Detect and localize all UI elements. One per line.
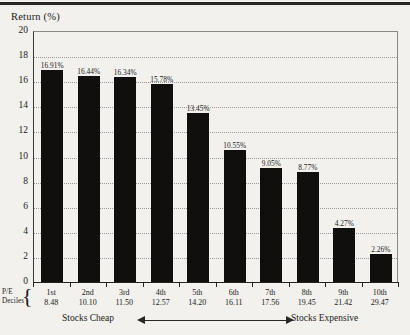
bar-value-label: 2.26% bbox=[363, 245, 399, 254]
x-axis-tick bbox=[33, 282, 34, 287]
decile-rank-label: 4th bbox=[141, 288, 181, 297]
top-rule-divider bbox=[0, 2, 410, 5]
annotation-stocks-expensive: Stocks Expensive bbox=[291, 313, 358, 323]
bar-value-label: 15.78% bbox=[144, 75, 180, 84]
bar-value-label: 13.45% bbox=[180, 104, 216, 113]
bar-value-label: 16.91% bbox=[34, 61, 70, 70]
decile-rank-label: 5th bbox=[177, 288, 217, 297]
x-axis-tick bbox=[252, 282, 253, 287]
decile-rank-label: 7th bbox=[250, 288, 290, 297]
bar bbox=[260, 168, 282, 282]
decile-pe-value: 21.42 bbox=[323, 298, 363, 307]
decile-pe-value: 12.57 bbox=[141, 298, 181, 307]
bar bbox=[187, 113, 209, 282]
bar bbox=[41, 70, 63, 282]
bar bbox=[370, 254, 392, 282]
bar bbox=[297, 172, 319, 282]
y-axis-title: Return (%) bbox=[11, 11, 60, 22]
decile-pe-value: 17.56 bbox=[250, 298, 290, 307]
decile-rank-label: 3rd bbox=[104, 288, 144, 297]
x-axis-tick bbox=[362, 282, 363, 287]
bar-value-label: 4.27% bbox=[326, 219, 362, 228]
decile-rank-label: 2nd bbox=[68, 288, 108, 297]
x-axis-tick bbox=[143, 282, 144, 287]
x-axis-tick bbox=[216, 282, 217, 287]
bar-value-label: 9.05% bbox=[253, 159, 289, 168]
y-axis-tick-label: 10 bbox=[4, 151, 28, 161]
decile-rank-label: 1st bbox=[31, 288, 71, 297]
chart-page: Return (%) 16.91%16.44%16.34%15.78%13.45… bbox=[0, 0, 410, 335]
bar bbox=[333, 228, 355, 282]
pe-label-line1: P/E bbox=[2, 288, 13, 296]
decile-pe-value: 29.47 bbox=[360, 298, 400, 307]
x-axis-tick bbox=[325, 282, 326, 287]
bar-value-label: 10.55% bbox=[217, 141, 253, 150]
x-axis-tick bbox=[289, 282, 290, 287]
y-axis-tick-label: 12 bbox=[4, 125, 28, 135]
decile-rank-label: 10th bbox=[360, 288, 400, 297]
x-axis-tick bbox=[179, 282, 180, 287]
y-axis-tick-label: 8 bbox=[4, 176, 28, 186]
bar bbox=[78, 76, 100, 282]
bar-value-label: 8.77% bbox=[290, 163, 326, 172]
annotation-arrow-line bbox=[144, 320, 288, 321]
bar bbox=[114, 77, 136, 282]
decile-pe-value: 10.10 bbox=[68, 298, 108, 307]
y-axis-tick-label: 18 bbox=[4, 50, 28, 60]
decile-pe-value: 16.11 bbox=[214, 298, 254, 307]
annotation-stocks-cheap: Stocks Cheap bbox=[62, 313, 114, 323]
pe-label-line2: Deciles bbox=[2, 297, 24, 305]
x-axis-tick bbox=[106, 282, 107, 287]
bar-value-label: 16.34% bbox=[107, 68, 143, 77]
bar-value-label: 16.44% bbox=[71, 67, 107, 76]
plot-area: 16.91%16.44%16.34%15.78%13.45%10.55%9.05… bbox=[33, 31, 398, 282]
y-axis-tick-label: 4 bbox=[4, 226, 28, 236]
y-axis-tick-label: 16 bbox=[4, 75, 28, 85]
y-axis-tick-label: 2 bbox=[4, 251, 28, 261]
decile-rank-label: 8th bbox=[287, 288, 327, 297]
decile-pe-value: 8.48 bbox=[31, 298, 71, 307]
decile-pe-value: 14.20 bbox=[177, 298, 217, 307]
decile-rank-label: 9th bbox=[323, 288, 363, 297]
bar bbox=[151, 84, 173, 282]
bar bbox=[224, 150, 246, 282]
y-axis-tick-label: 6 bbox=[4, 201, 28, 211]
bars-group: 16.91%16.44%16.34%15.78%13.45%10.55%9.05… bbox=[34, 32, 397, 282]
decile-rank-label: 6th bbox=[214, 288, 254, 297]
y-axis-tick-label: 14 bbox=[4, 100, 28, 110]
y-axis-tick-label: 20 bbox=[4, 25, 28, 35]
decile-pe-value: 11.50 bbox=[104, 298, 144, 307]
x-axis-tick bbox=[70, 282, 71, 287]
x-axis-tick bbox=[398, 282, 399, 287]
decile-pe-value: 19.45 bbox=[287, 298, 327, 307]
